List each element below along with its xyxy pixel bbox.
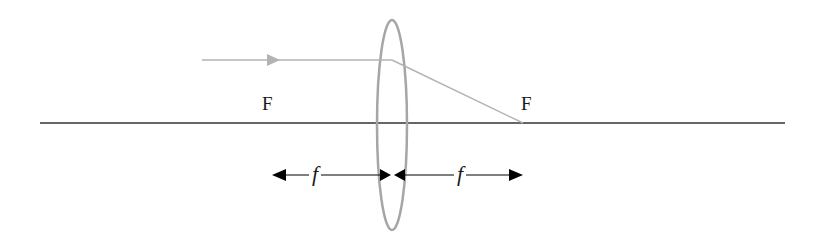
focal-point-right-label: F <box>521 94 532 113</box>
focal-point-left-label: F <box>262 94 273 113</box>
arrow-right-icon <box>509 169 523 181</box>
arrow-left-icon <box>272 169 286 181</box>
arrow-right-icon <box>380 169 391 181</box>
refracted-ray <box>392 60 523 123</box>
focal-length-left-label: f <box>309 163 321 185</box>
convex-lens <box>377 20 407 230</box>
focal-length-right-label: f <box>454 163 466 185</box>
diagram-canvas <box>0 0 815 238</box>
ray-direction-arrow-icon <box>267 54 280 66</box>
lens-diagram: F F f f <box>0 0 815 238</box>
focal-length-dimension-left <box>272 169 391 181</box>
arrow-left-icon <box>394 169 405 181</box>
